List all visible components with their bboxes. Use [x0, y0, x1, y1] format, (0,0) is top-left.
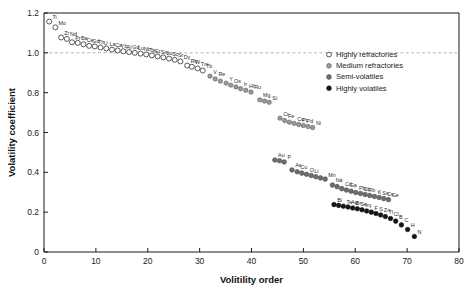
data-point [189, 64, 194, 69]
legend-label: Medium refractories [336, 61, 403, 70]
data-point [300, 171, 305, 176]
data-point [81, 42, 86, 47]
data-point [53, 25, 58, 30]
data-point [350, 206, 355, 211]
data-point [369, 210, 374, 215]
data-point [132, 50, 137, 55]
data-point [304, 172, 309, 177]
data-point [330, 183, 335, 188]
legend-marker [327, 63, 332, 68]
data-point [309, 173, 314, 178]
data-point [386, 197, 391, 202]
y-tick-label: 0.4 [27, 167, 39, 177]
data-point [405, 227, 410, 232]
element-label: Bi [337, 197, 342, 203]
data-point [267, 100, 271, 104]
data-point [283, 118, 287, 122]
element-label: O [310, 167, 314, 173]
data-point [292, 121, 296, 125]
element-label: Ni [316, 120, 321, 126]
x-tick-label: 70 [402, 256, 412, 266]
data-point [346, 205, 351, 210]
element-label: Au [278, 152, 285, 158]
data-point [70, 40, 75, 45]
element-label: Li [314, 168, 318, 174]
data-point [412, 234, 417, 239]
element-label: Os [234, 78, 241, 84]
data-point [332, 202, 337, 207]
data-point [185, 63, 190, 68]
data-point [167, 56, 172, 61]
element-label: Ge [392, 192, 399, 198]
data-point [155, 54, 160, 59]
element-label: N [418, 229, 422, 235]
x-tick-label: 80 [454, 256, 464, 266]
data-point [388, 216, 393, 221]
legend-marker [327, 75, 332, 80]
data-point [64, 36, 69, 41]
data-point [335, 184, 340, 189]
x-tick-label: 0 [42, 256, 47, 266]
element-label: Y [229, 76, 233, 82]
element-label: Re [218, 71, 225, 77]
data-point [301, 123, 305, 127]
data-point [383, 214, 388, 219]
data-point [295, 169, 300, 174]
data-point [353, 190, 358, 195]
legend-marker [327, 86, 332, 91]
element-label: V [213, 69, 217, 75]
data-point [323, 177, 328, 182]
data-point [378, 213, 383, 218]
legend-marker [327, 52, 332, 57]
element-label: K [378, 189, 382, 195]
data-point [47, 19, 52, 24]
x-tick-label: 60 [351, 256, 361, 266]
x-tick-label: 50 [299, 256, 309, 266]
data-point [381, 196, 386, 201]
element-label: Al [127, 44, 132, 50]
element-label: Ru [254, 84, 261, 90]
element-label: Rb [368, 187, 375, 193]
data-point [262, 99, 266, 103]
legend-label: Semi-volatiles [336, 72, 383, 81]
x-axis-title: Volitility order [220, 274, 283, 285]
x-tick-label: 40 [247, 256, 257, 266]
data-point [200, 68, 205, 73]
data-point [360, 207, 365, 212]
y-tick-label: 1.0 [27, 48, 39, 58]
element-label: Cu [300, 164, 307, 170]
element-label: Mo [59, 20, 67, 26]
data-point [287, 120, 291, 124]
data-point [75, 40, 80, 45]
x-tick-label: 10 [91, 256, 101, 266]
data-point [104, 46, 109, 51]
element-label: Tl [389, 209, 394, 215]
data-point [115, 48, 120, 53]
data-point [341, 204, 346, 209]
data-point [98, 45, 103, 50]
data-point [149, 53, 154, 58]
element-label: Ga [350, 182, 357, 188]
data-point [363, 192, 368, 197]
data-point [377, 195, 382, 200]
chart-figure: 0102030405060708000.20.40.60.81.01.2 TiM… [0, 0, 471, 291]
data-point [336, 203, 341, 208]
data-point [297, 122, 301, 126]
data-point [374, 211, 379, 216]
x-tick-label: 30 [195, 256, 205, 266]
element-label: Pd [307, 118, 314, 124]
data-point [238, 86, 242, 90]
element-label: Zr [64, 30, 69, 36]
data-point [87, 43, 92, 48]
data-point [234, 85, 238, 89]
data-point [144, 52, 149, 57]
data-point [161, 55, 166, 60]
element-label: U [104, 40, 108, 46]
data-point [349, 189, 354, 194]
data-point [229, 83, 233, 87]
element-label: P [287, 154, 291, 160]
data-point [59, 35, 64, 40]
data-point [314, 174, 319, 179]
element-label: H [411, 222, 415, 228]
data-point [358, 191, 363, 196]
